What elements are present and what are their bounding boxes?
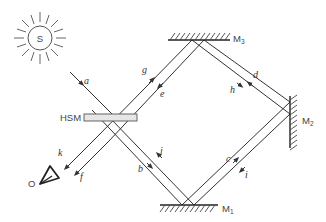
beam-label-a: a	[84, 75, 89, 86]
arrow-d	[249, 83, 253, 86]
arrow-b	[147, 163, 151, 167]
source-label: S	[37, 33, 43, 44]
beam-label-d: d	[253, 69, 259, 80]
mirror-m3	[168, 33, 230, 40]
beam-label-f: f	[80, 171, 84, 182]
beam-path-hsm-m3	[96, 40, 204, 142]
beam-path-m2-m1	[182, 102, 290, 205]
beam-label-e: e	[160, 88, 165, 99]
mirror-m1-label: M1	[222, 203, 234, 215]
beam-path-m1-hsm	[92, 110, 194, 205]
beam-a-cont	[82, 84, 112, 114]
arrow-c	[233, 159, 237, 163]
mirror-m3-label: M3	[233, 33, 245, 45]
light-source-icon: S	[14, 12, 66, 64]
mirror-m1	[160, 205, 218, 212]
beam-splitter	[84, 114, 137, 121]
beam-splitter-label: HSM	[60, 112, 81, 123]
beam-label-c: c	[226, 153, 231, 164]
observer-label: O	[28, 178, 35, 189]
observer-eye-icon	[40, 166, 59, 184]
mirror-m2-label: M2	[302, 115, 314, 127]
beam-label-i: i	[245, 169, 248, 180]
arrow-h	[237, 83, 241, 86]
beam-label-b: b	[138, 163, 143, 174]
beam-path-output	[66, 138, 108, 174]
beam-path-m3-m2	[192, 40, 290, 114]
beam-label-h: h	[230, 84, 235, 95]
beam-label-g: g	[142, 64, 147, 75]
beam-a	[70, 72, 82, 84]
mirror-m2	[290, 95, 297, 150]
interferometer-diagram: S a k f g e d h c i b j H	[0, 0, 326, 222]
beam-label-k: k	[58, 147, 63, 158]
